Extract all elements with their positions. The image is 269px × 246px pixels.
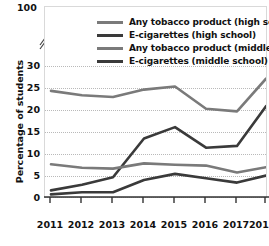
series-line-any-tobacco-middle-school — [51, 163, 266, 172]
x-tick-label-2016: 2016 — [190, 219, 220, 230]
x-tick-label-2018: 201 — [249, 219, 269, 230]
legend-label: Any tobacco product (middle school) — [129, 43, 269, 53]
legend-item-any-tobacco-middle-school: Any tobacco product (middle school) — [97, 42, 269, 54]
x-tick-label-2014: 2014 — [128, 219, 158, 230]
y-tick-label-10: 10 — [16, 148, 40, 159]
legend-swatch-icon — [97, 34, 123, 37]
series-line-any-tobacco-high-school — [51, 79, 266, 112]
legend-item-any-tobacco-high-school: Any tobacco product (high school) — [97, 16, 269, 28]
legend-label: E-cigarettes (middle school) — [129, 56, 268, 66]
y-tick-label-100: 100 — [17, 2, 37, 13]
x-tick-label-2015: 2015 — [159, 219, 189, 230]
y-tick-label-30: 30 — [16, 60, 40, 71]
y-tick-label-15: 15 — [16, 126, 40, 137]
legend-item-ecigarettes-high-school: E-cigarettes (high school) — [97, 29, 269, 41]
x-tick-label-2011: 2011 — [35, 219, 65, 230]
x-tick-label-2017: 2017 — [221, 219, 251, 230]
y-tick-label-5: 5 — [16, 170, 40, 181]
x-tick-label-2013: 2013 — [97, 219, 127, 230]
x-tick-label-2012: 2012 — [66, 219, 96, 230]
y-tick-label-0: 0 — [16, 192, 40, 203]
legend-swatch-icon — [97, 47, 123, 50]
legend-swatch-icon — [97, 21, 123, 24]
legend-swatch-icon — [97, 60, 123, 63]
y-tick-label-25: 25 — [16, 82, 40, 93]
legend-label: Any tobacco product (high school) — [129, 17, 269, 27]
x-axis — [44, 196, 269, 206]
plot-area: Any tobacco product (high school) E-ciga… — [44, 6, 267, 198]
y-tick-label-20: 20 — [16, 104, 40, 115]
legend-label: E-cigarettes (high school) — [129, 30, 256, 40]
legend: Any tobacco product (high school) E-ciga… — [97, 16, 269, 68]
line-chart: Percentage of students 100 30 25 20 15 1… — [0, 0, 269, 246]
legend-item-ecigarettes-middle-school: E-cigarettes (middle school) — [97, 55, 269, 67]
